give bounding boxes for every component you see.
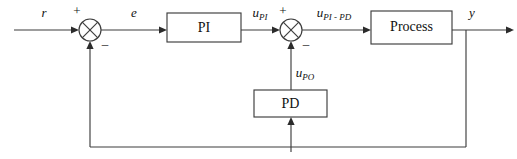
arrowhead-sum1-minus-input: [86, 41, 93, 49]
signal-label-y: y: [467, 5, 475, 20]
signal-label-u-po: uPO: [296, 65, 315, 82]
arrowhead-e: [159, 26, 167, 33]
summing-junction-1-plus-sign: +: [73, 3, 80, 18]
signal-label-u-pi-pd-sub: PI - PD: [322, 12, 351, 22]
signal-label-u-pi-sub: PI: [258, 12, 268, 22]
summing-junction-2-plus-sign: +: [279, 3, 286, 18]
signal-label-r: r: [41, 5, 47, 20]
block-pd-label: PD: [282, 96, 300, 111]
arrowhead-u-pi: [272, 26, 280, 33]
signal-label-y-base: y: [467, 5, 475, 20]
arrowhead-sum2-minus-input: [287, 41, 294, 49]
summing-junction-1-minus-sign: –: [101, 36, 109, 51]
arrowhead-y-output: [506, 26, 514, 33]
summing-junction-2-minus-sign: –: [302, 36, 310, 51]
block-pi[interactable]: PI: [167, 13, 241, 42]
block-diagram-canvas: PI Process PD + –: [0, 0, 517, 159]
signal-label-u-pi-pd: uPI - PD: [317, 5, 352, 22]
arrowhead-r-input: [71, 26, 79, 33]
signal-label-e: e: [131, 5, 137, 20]
arrowhead-u-pi-pd: [363, 26, 371, 33]
block-pd[interactable]: PD: [254, 90, 327, 117]
arrowhead-pd-input: [287, 117, 294, 125]
block-process-label: Process: [390, 19, 433, 34]
summing-junction-2[interactable]: + –: [279, 3, 309, 51]
signal-label-u-po-sub: PO: [301, 72, 314, 82]
blocks-group: PI Process PD: [167, 11, 452, 117]
wire-group: [14, 26, 514, 152]
block-pi-label: PI: [198, 20, 211, 35]
block-process[interactable]: Process: [371, 11, 452, 44]
block-diagram-figure: PI Process PD + –: [0, 0, 517, 159]
signal-label-e-base: e: [131, 5, 137, 20]
signal-label-u-pi: uPI: [253, 5, 269, 22]
signal-label-r-base: r: [41, 5, 47, 20]
